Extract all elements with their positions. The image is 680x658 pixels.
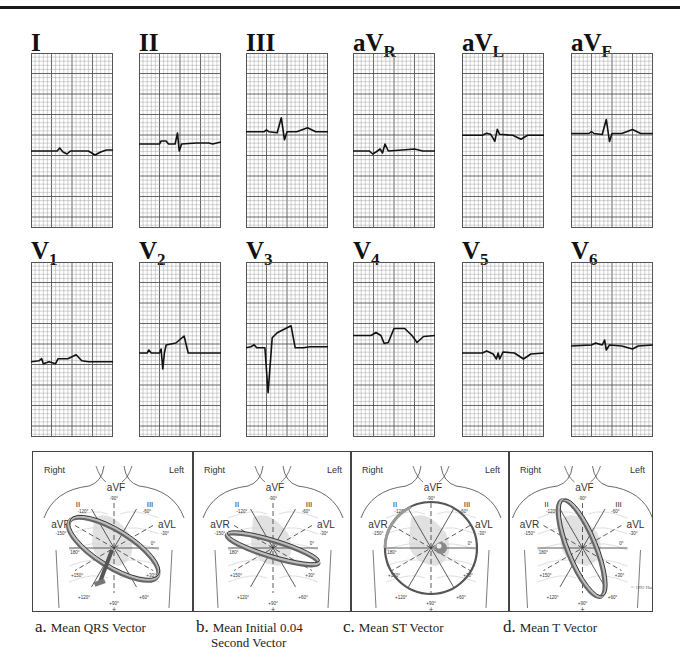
svg-text:0°: 0° xyxy=(468,541,473,546)
lead-label: V2 xyxy=(139,238,166,263)
svg-text:III: III xyxy=(306,500,313,509)
lead-label-main: V xyxy=(462,237,480,264)
svg-text:+60°: +60° xyxy=(608,595,618,600)
ecg-strip xyxy=(571,262,653,437)
svg-text:-60°: -60° xyxy=(302,509,311,514)
svg-text:-30°: -30° xyxy=(320,531,329,536)
svg-text:+: + xyxy=(580,606,584,612)
lead-label-main: V xyxy=(353,237,371,264)
svg-text:aVF: aVF xyxy=(424,482,442,493)
lead-label-main: I xyxy=(31,29,41,56)
svg-text:+: + xyxy=(112,606,116,612)
svg-text:-60°: -60° xyxy=(143,509,152,514)
vector-panel-c: aVF-90°II-120°III-60°aVR-150°aVL-30°180°… xyxy=(350,451,508,612)
ecg-strip xyxy=(571,53,653,228)
svg-text:+150°: +150° xyxy=(71,573,83,578)
svg-text:+: + xyxy=(271,606,275,612)
ecg-strip xyxy=(353,53,435,228)
lead-label-main: aV xyxy=(353,29,384,56)
lead-label-main: V xyxy=(31,237,49,264)
svg-text:aVR: aVR xyxy=(368,519,387,530)
lead-label-main: V xyxy=(571,237,589,264)
svg-text:III: III xyxy=(615,500,622,509)
caption-letter: d. xyxy=(503,617,516,636)
caption-title: Mean Initial 0.04 xyxy=(213,620,303,635)
svg-text:180°: 180° xyxy=(70,550,80,555)
copyright-label: © 1992 Hurst xyxy=(631,585,653,590)
panel-caption: d.Mean T Vector xyxy=(503,619,597,635)
right-side-label: Right xyxy=(362,465,384,475)
lead-label: V5 xyxy=(462,238,489,263)
svg-text:aVL: aVL xyxy=(475,519,493,530)
lead-label: I xyxy=(31,30,41,55)
svg-text:-90°: -90° xyxy=(269,496,278,501)
svg-text:+120°: +120° xyxy=(395,595,407,600)
lead-label-main: aV xyxy=(571,29,602,56)
hexaxial-diagram: aVF-90°II-120°III-60°aVR-150°aVL-30°180°… xyxy=(350,451,508,612)
ecg-strip xyxy=(139,53,221,228)
svg-text:-120°: -120° xyxy=(546,509,557,514)
panel-caption: b.Mean Initial 0.04Second Vector xyxy=(196,619,303,650)
caption-title: Mean QRS Vector xyxy=(51,620,146,635)
top-rule xyxy=(0,6,680,9)
caption-letter: b. xyxy=(196,617,209,636)
caption-letter: c. xyxy=(343,617,355,636)
ecg-strip xyxy=(246,262,328,437)
lead-label: V4 xyxy=(353,238,380,263)
ecg-strip xyxy=(353,262,435,437)
svg-text:180°: 180° xyxy=(229,550,239,555)
right-side-label: Right xyxy=(520,465,542,475)
svg-text:0°: 0° xyxy=(151,541,156,546)
svg-text:-120°: -120° xyxy=(237,509,248,514)
panel-caption: c.Mean ST Vector xyxy=(343,619,444,635)
lead-label: V6 xyxy=(571,238,598,263)
svg-text:aVR: aVR xyxy=(520,519,539,530)
svg-text:aVF: aVF xyxy=(266,482,284,493)
svg-text:II: II xyxy=(393,500,397,509)
svg-text:II: II xyxy=(76,500,80,509)
lead-label-main: V xyxy=(139,237,157,264)
svg-text:-150°: -150° xyxy=(215,531,226,536)
svg-text:+120°: +120° xyxy=(547,595,559,600)
lead-label-main: V xyxy=(246,237,264,264)
svg-text:aVL: aVL xyxy=(317,519,335,530)
ecg-strip xyxy=(31,262,113,437)
lead-label: II xyxy=(139,30,158,55)
svg-text:aVF: aVF xyxy=(575,482,593,493)
svg-text:III: III xyxy=(464,500,471,509)
svg-text:II: II xyxy=(235,500,239,509)
svg-text:-30°: -30° xyxy=(629,531,638,536)
vector-panel-a: aVF-90°II-120°III-60°aVR-150°aVL-30°180°… xyxy=(32,451,192,612)
svg-text:+60°: +60° xyxy=(139,595,149,600)
svg-text:aVL: aVL xyxy=(158,519,176,530)
lead-label: aVF xyxy=(571,30,612,55)
svg-text:-60°: -60° xyxy=(611,509,620,514)
svg-text:aVL: aVL xyxy=(627,519,645,530)
caption-title: Mean ST Vector xyxy=(359,620,444,635)
svg-text:-120°: -120° xyxy=(78,509,89,514)
svg-text:+30°: +30° xyxy=(146,573,156,578)
svg-text:aVF: aVF xyxy=(107,482,125,493)
svg-text:+120°: +120° xyxy=(237,595,249,600)
lead-label: V1 xyxy=(31,238,58,263)
svg-text:+60°: +60° xyxy=(298,595,308,600)
left-side-label: Left xyxy=(169,465,185,475)
lead-label: III xyxy=(246,30,275,55)
lead-label-main: II xyxy=(139,29,158,56)
left-side-label: Left xyxy=(630,465,646,475)
svg-text:+120°: +120° xyxy=(78,595,90,600)
ecg-strip xyxy=(462,262,544,437)
right-side-label: Right xyxy=(204,465,226,475)
svg-text:0°: 0° xyxy=(310,541,315,546)
lead-label: aVR xyxy=(353,30,396,55)
svg-text:-150°: -150° xyxy=(524,531,535,536)
lead-label: aVL xyxy=(462,30,504,55)
svg-text:-90°: -90° xyxy=(110,496,119,501)
svg-text:180°: 180° xyxy=(387,550,397,555)
ecg-strip xyxy=(31,53,113,228)
ecg-strip xyxy=(139,262,221,437)
svg-text:+30°: +30° xyxy=(615,573,625,578)
svg-text:+30°: +30° xyxy=(305,573,315,578)
ecg-strip xyxy=(462,53,544,228)
hexaxial-diagram: aVF-90°II-120°III-60°aVR-150°aVL-30°180°… xyxy=(192,451,350,612)
